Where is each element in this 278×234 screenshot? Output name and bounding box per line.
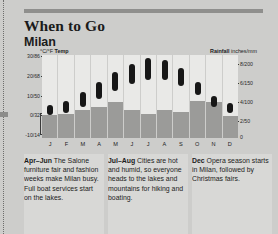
page-subtitle: Milan [24,35,56,49]
temp-tick-10: 10/50 [12,93,40,99]
rain-axis-title: Rainfall inches/mm [210,48,257,54]
month-label-october: O [189,140,205,149]
season-note-1: Apr–Jun The Salone furniture fair and fa… [24,154,104,234]
page-content: When to Go Milan °C/°F Temp Rainfall inc… [18,0,278,234]
temperature-range-bar [178,68,184,86]
rainfall-bar [157,110,172,138]
page-cut-line [3,0,4,234]
chart-column-april [91,55,107,138]
rainfall-bar [75,110,90,138]
season-note-term: Jul–Aug [108,157,135,164]
rain-axis-name: Rainfall [210,48,229,54]
rainfall-bar [108,102,123,138]
temperature-range-bar [211,96,217,108]
page-title: When to Go [24,17,105,35]
month-label-june: J [124,140,140,149]
rain-tick-2: 2/50 [240,118,250,124]
month-label-may: M [107,140,123,149]
rain-tick-4: 4/100 [240,99,253,105]
temp-tick-20: 20/68 [12,73,40,79]
temp-tick-30: 30/86 [12,53,40,59]
temperature-range-bar [145,58,151,80]
rain-tick-8: 8/200 [240,61,253,67]
month-label-april: A [91,140,107,149]
temperature-range-bar [47,105,53,115]
rainfall-bar [141,114,156,138]
temperature-range-bar [63,101,69,113]
month-label-july: J [140,140,156,149]
chart-column-november [206,55,222,138]
temperature-range-bar [112,72,118,92]
season-note-2: Jul–Aug Cities are hot and humid, so eve… [108,154,188,234]
header-rule [24,9,263,13]
chart-plot-area [42,55,238,138]
month-label-august: A [156,140,172,149]
month-axis: JFMAMJJASOND [42,140,238,149]
season-note-term: Apr–Jun [24,157,52,164]
month-label-march: M [75,140,91,149]
temp-tick-minus10: -10/14 [12,132,40,138]
rainfall-bar [42,115,57,138]
chart-column-september [173,55,189,138]
temperature-range-bar [80,92,86,108]
chart-column-october [190,55,206,138]
rainfall-bar [206,102,221,138]
chart-column-june [124,55,140,138]
temperature-range-bar [162,60,168,80]
rainfall-bar [223,116,238,138]
season-note-term: Dec [192,157,205,164]
temp-tick-0: 0/32 [12,112,40,118]
temperature-range-bar [96,82,102,100]
temperature-range-bar [129,64,135,84]
chart-column-august [157,55,173,138]
season-note-3: Dec Opera season starts in Milan, follow… [192,154,272,234]
climate-chart: °C/°F Temp Rainfall inches/mm 30/86 20/6… [18,48,278,148]
month-label-november: N [205,140,221,149]
month-label-december: D [222,140,238,149]
temperature-range-bar [195,82,201,96]
temperature-range-bar [227,103,233,113]
temp-axis-unit: °C/°F [40,48,53,54]
chart-column-december [223,55,238,138]
temp-axis-name: Temp [55,48,69,54]
page-edge-marker [0,112,8,117]
chart-column-january [42,55,58,138]
chart-column-february [58,55,74,138]
rain-tick-0: 0 [240,134,243,140]
rain-axis-unit: inches/mm [231,48,257,54]
temp-axis-title: °C/°F Temp [40,48,68,54]
month-label-january: J [42,140,58,149]
month-label-september: S [173,140,189,149]
rainfall-bar [91,107,106,138]
season-notes: Apr–Jun The Salone furniture fair and fa… [24,154,272,234]
rainfall-bar [190,101,205,138]
chart-column-may [108,55,124,138]
rain-tick-6: 6/150 [240,80,253,86]
chart-column-march [75,55,91,138]
rainfall-bar [58,114,73,138]
rainfall-bar [124,110,139,138]
chart-column-july [141,55,157,138]
rainfall-bar [173,112,188,139]
month-label-february: F [58,140,74,149]
